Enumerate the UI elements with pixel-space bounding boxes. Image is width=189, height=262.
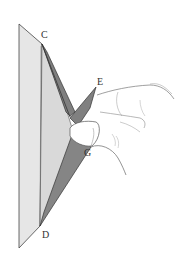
- paper-outer-panel: [19, 24, 42, 248]
- fold-illustration: [0, 0, 189, 262]
- label-d: D: [42, 230, 49, 240]
- index-finger: [97, 85, 174, 99]
- label-c: C: [41, 30, 48, 40]
- label-e: E: [97, 77, 103, 87]
- origami-diagram: C E G D: [0, 0, 189, 262]
- flap-e: [70, 87, 96, 126]
- label-g: G: [84, 148, 91, 158]
- palm-curve: [91, 146, 126, 175]
